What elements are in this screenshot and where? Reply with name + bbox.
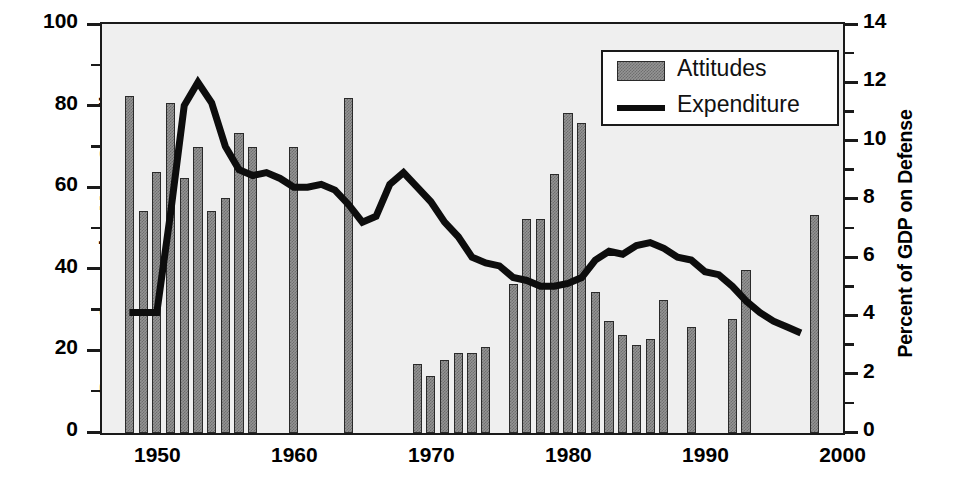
x-axis-tick-label: 1990 (660, 443, 750, 467)
axis-tick (87, 23, 102, 26)
axis-tick (843, 372, 858, 375)
y-axis-left-tick-label: 100 (8, 9, 78, 33)
x-axis-tick-label: 2000 (798, 443, 888, 467)
axis-tick (843, 168, 854, 171)
axis-tick (87, 104, 102, 107)
axis-tick (91, 227, 102, 230)
y-axis-right-tick-label: 14 (863, 9, 933, 33)
axis-tick (843, 343, 854, 346)
axis-tick (87, 186, 102, 189)
x-axis-tick-label: 1980 (523, 443, 613, 467)
y-axis-right-tick-label: 10 (863, 126, 933, 150)
axis-tick (843, 227, 854, 230)
axis-tick (87, 349, 102, 352)
axis-tick (87, 267, 102, 270)
y-axis-right-tick-label: 8 (863, 184, 933, 208)
y-axis-left-tick-label: 40 (8, 254, 78, 278)
y-axis-left-tick-label: 0 (8, 417, 78, 441)
axis-tick (843, 314, 858, 317)
axis-tick (843, 431, 858, 434)
axis-tick (843, 23, 858, 26)
x-axis-tick-label: 1950 (112, 443, 202, 467)
axis-tick (91, 145, 102, 148)
axis-tick (91, 390, 102, 393)
y-axis-right-tick-label: 6 (863, 242, 933, 266)
x-axis-tick-label: 1970 (386, 443, 476, 467)
axis-tick (87, 431, 102, 434)
legend-label-attitudes: Attitudes (677, 55, 767, 82)
y-axis-right-tick-label: 4 (863, 300, 933, 324)
axis-tick (843, 110, 854, 113)
legend-label-expenditure: Expenditure (677, 91, 800, 118)
y-axis-left-tick-label: 20 (8, 335, 78, 359)
axis-tick (843, 256, 858, 259)
y-axis-right-tick-label: 2 (863, 359, 933, 383)
y-axis-left-tick-label: 60 (8, 172, 78, 196)
y-axis-left-tick-label: 80 (8, 91, 78, 115)
legend-item-expenditure: Expenditure (603, 88, 837, 126)
axis-tick (91, 64, 102, 67)
chart-figure: Percent Supporting More Spending Percent… (0, 0, 955, 484)
axis-tick (843, 285, 854, 288)
legend-bar-swatch-icon (617, 61, 665, 81)
axis-tick (843, 139, 858, 142)
chart-legend: Attitudes Expenditure (601, 50, 839, 126)
legend-item-attitudes: Attitudes (603, 52, 837, 90)
y-axis-right-tick-label: 12 (863, 67, 933, 91)
axis-tick (843, 402, 854, 405)
axis-tick (843, 197, 858, 200)
y-axis-right-tick-label: 0 (863, 417, 933, 441)
x-axis-tick-label: 1960 (249, 443, 339, 467)
axis-tick (843, 81, 858, 84)
axis-tick (91, 308, 102, 311)
axis-tick (843, 52, 854, 55)
legend-line-swatch-icon (617, 105, 665, 111)
